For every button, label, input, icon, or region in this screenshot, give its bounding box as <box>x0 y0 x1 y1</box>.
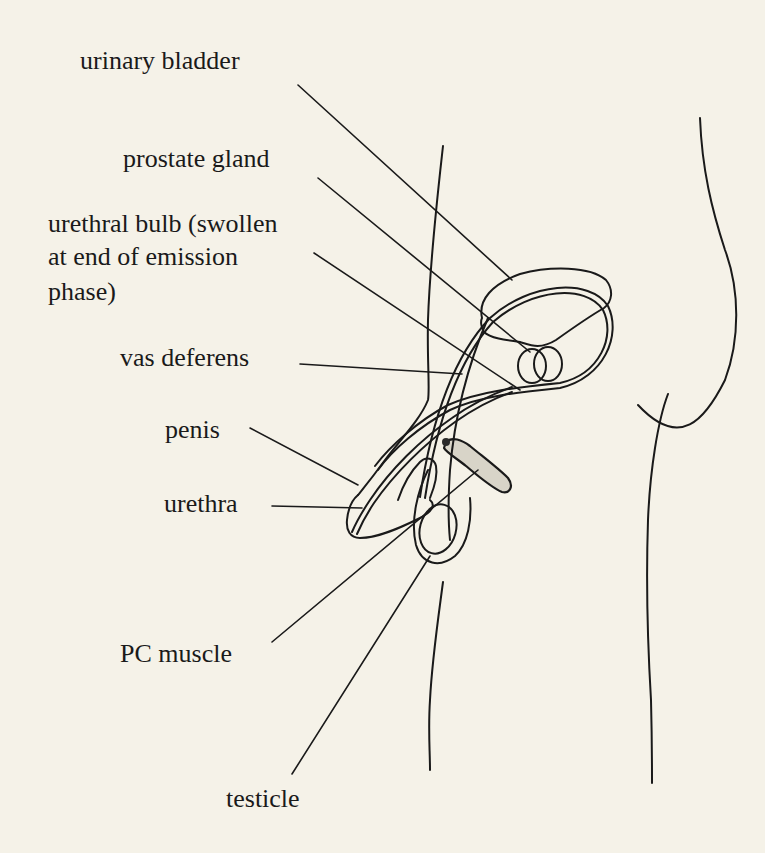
label-penis: penis <box>165 414 220 446</box>
urinary-bladder-shape <box>481 269 611 346</box>
anatomy-figure: urinary bladder prostate gland urethral … <box>0 0 765 853</box>
prostate-lobe-right <box>534 347 562 381</box>
label-urethral-bulb-line-3: phase) <box>48 276 116 308</box>
thigh-back-contour <box>647 394 668 783</box>
testicle-shape <box>414 500 462 558</box>
leader-urethral-bulb <box>314 253 520 390</box>
pc-muscle-shape <box>444 439 511 492</box>
urethral-bulb-line <box>449 318 489 540</box>
label-urethra: urethra <box>164 488 238 520</box>
label-testicle: testicle <box>226 783 300 815</box>
label-urethral-bulb-line-2: at end of emission <box>48 241 238 273</box>
label-vas-deferens: vas deferens <box>120 342 249 374</box>
label-urethral-bulb-line-1: urethral bulb (swollen <box>48 208 278 240</box>
leg-front-contour <box>429 582 443 770</box>
label-prostate-gland: prostate gland <box>123 143 270 175</box>
label-pc-muscle: PC muscle <box>120 638 232 670</box>
leader-pc-muscle <box>272 470 478 642</box>
leader-penis <box>250 428 358 485</box>
leader-urethra <box>272 506 362 508</box>
body-back-contour <box>638 118 736 427</box>
leader-vas-deferens <box>300 364 462 374</box>
label-urinary-bladder: urinary bladder <box>80 45 240 77</box>
pc-muscle-dot <box>442 438 450 446</box>
leader-testicle <box>292 556 430 774</box>
leader-urinary-bladder <box>298 85 512 280</box>
prostate-lobe-left <box>518 349 546 383</box>
anatomy-drawing <box>0 0 765 853</box>
